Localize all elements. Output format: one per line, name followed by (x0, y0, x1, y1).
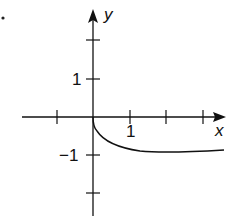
x-axis-label: x (214, 121, 224, 140)
x-tick-label-1: 1 (126, 122, 135, 141)
y-axis-label: y (103, 5, 114, 24)
y-tick-label-neg1: −1 (59, 146, 78, 165)
marker-dot (1, 16, 4, 19)
chart-canvas: y x 1 1 −1 (0, 0, 227, 223)
y-tick-label-1: 1 (72, 70, 81, 89)
curve-line (93, 117, 224, 152)
chart: y x 1 1 −1 (0, 0, 227, 223)
